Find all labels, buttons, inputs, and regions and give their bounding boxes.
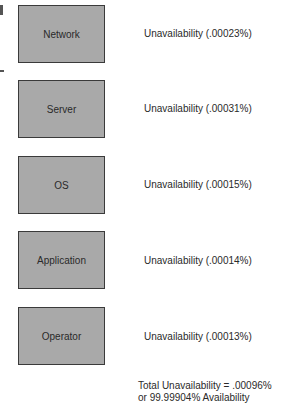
unavailability-server: Unavailability (.00031%) xyxy=(144,103,252,114)
component-box-network: Network xyxy=(18,5,105,63)
unavailability-application: Unavailability (.00014%) xyxy=(144,255,252,266)
edge-mark xyxy=(0,5,3,15)
unavailability-operator: Unavailability (.00013%) xyxy=(144,331,252,342)
component-box-server: Server xyxy=(18,80,105,138)
unavailability-os: Unavailability (.00015%) xyxy=(144,179,252,190)
component-label: Application xyxy=(37,255,86,266)
edge-mark xyxy=(0,70,4,72)
component-label: Server xyxy=(47,104,76,115)
component-label: Operator xyxy=(42,331,81,342)
component-label: Network xyxy=(43,29,80,40)
component-label: OS xyxy=(54,180,68,191)
total-summary: Total Unavailability = .00096% or 99.999… xyxy=(138,380,272,404)
unavailability-network: Unavailability (.00023%) xyxy=(144,28,252,39)
component-box-application: Application xyxy=(18,231,105,289)
component-box-operator: Operator xyxy=(18,307,105,365)
total-availability: or 99.99904% Availability xyxy=(138,392,272,404)
component-box-os: OS xyxy=(18,156,105,214)
total-unavailability: Total Unavailability = .00096% xyxy=(138,380,272,392)
